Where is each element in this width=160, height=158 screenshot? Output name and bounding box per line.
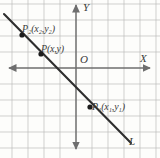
point-P1-label-text: P₁(x₁,y₁) [92,101,125,112]
coordinate-plane-figure: P₂(x₂,y₂) P(x,y) P₁(x₁,y₁) X Y O L [0,0,160,158]
x-axis-label: X [140,53,147,64]
x-axis-label-text: X [140,52,147,64]
point-P-label: P(x,y) [41,44,64,54]
point-P-label-text: P(x,y) [41,43,64,54]
origin-label-text: O [80,53,88,65]
line-L-label-text: L [129,135,135,147]
point-P1-label: P₁(x₁,y₁) [92,102,125,112]
point-P2-label-text: P₂(x₂,y₂) [22,23,55,34]
y-axis-label: Y [83,2,89,13]
line-L-label: L [129,136,135,147]
y-axis-label-text: Y [83,1,89,13]
point-P2-label: P₂(x₂,y₂) [22,24,55,34]
origin-label: O [80,54,88,65]
